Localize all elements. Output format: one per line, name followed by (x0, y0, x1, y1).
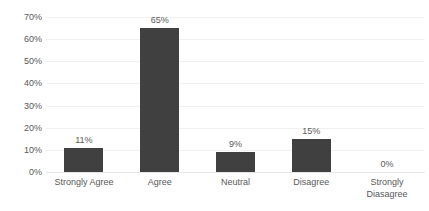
bar[interactable] (64, 148, 103, 172)
bar-slot: 0% (368, 17, 407, 172)
bar-slot: 65% (140, 17, 179, 172)
y-axis-tick-label: 0% (2, 167, 42, 177)
x-axis-category-label: Strongly Agree (46, 176, 122, 188)
bar-chart: 0%10%20%30%40%50%60%70% 11%65%9%15%0% St… (0, 0, 429, 211)
bar-value-label: 11% (75, 135, 92, 146)
bar-slot: 11% (64, 17, 103, 172)
bar-value-label: 65% (151, 15, 169, 26)
x-axis-category-label: Neutral (198, 176, 274, 188)
y-axis-tick-label: 40% (2, 78, 42, 88)
y-axis-tick-label: 50% (2, 56, 42, 66)
bar[interactable] (216, 152, 255, 172)
y-axis-tick-label: 70% (2, 12, 42, 22)
bar-value-label: 9% (229, 139, 242, 150)
bar-value-label: 0% (381, 159, 394, 170)
y-axis: 0%10%20%30%40%50%60%70% (0, 17, 42, 172)
bar[interactable] (292, 139, 331, 172)
x-axis-category-label: Agree (122, 176, 198, 188)
bar-value-label: 15% (302, 126, 320, 137)
y-axis-tick-label: 60% (2, 34, 42, 44)
x-axis-category-label: Strongly Diasagree (349, 176, 425, 200)
x-axis-category-labels: Strongly AgreeAgreeNeutralDisagreeStrong… (46, 174, 425, 211)
y-axis-tick-label: 30% (2, 101, 42, 111)
plot-area: 11%65%9%15%0% (46, 17, 425, 172)
gridline-0% (46, 172, 425, 173)
x-axis-category-label: Disagree (273, 176, 349, 188)
bar-slot: 15% (292, 17, 331, 172)
y-axis-tick-label: 10% (2, 145, 42, 155)
bar[interactable] (140, 28, 179, 172)
y-axis-tick-label: 20% (2, 123, 42, 133)
bar-slot: 9% (216, 17, 255, 172)
